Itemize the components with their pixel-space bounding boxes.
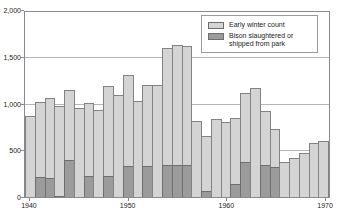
y-tick-mark <box>21 10 24 11</box>
y-tick-label-500: 500 <box>0 147 21 154</box>
y-tick-label-1,500: 1,500 <box>0 54 21 61</box>
legend: Early winter count Bison slaughtered or … <box>201 15 318 53</box>
y-tick-label-0: 0 <box>0 194 21 201</box>
y-tick-mark <box>21 150 24 151</box>
x-tick-mark-1960 <box>226 198 227 201</box>
bar-1970 <box>318 141 329 197</box>
y-tick-label-2,000: 2,000 <box>0 7 21 14</box>
legend-item-early-winter-count: Early winter count <box>208 21 313 29</box>
x-tick-label-1950: 1950 <box>113 202 143 209</box>
bison-slaughtered-swatch-icon <box>208 33 224 40</box>
x-tick-label-1940: 1940 <box>14 202 44 209</box>
legend-label: Bison slaughtered or shipped from park <box>229 32 313 48</box>
x-tick-mark-1970 <box>325 198 326 201</box>
y-tick-mark <box>21 197 24 198</box>
x-tick-label-1970: 1970 <box>310 202 338 209</box>
legend-label: Early winter count <box>229 21 285 29</box>
early-winter-count-swatch-icon <box>208 22 224 29</box>
y-tick-mark <box>21 104 24 105</box>
x-tick-label-1960: 1960 <box>211 202 241 209</box>
y-tick-mark <box>21 57 24 58</box>
y-tick-label-1,000: 1,000 <box>0 101 21 108</box>
x-tick-mark-1940 <box>29 198 30 201</box>
x-tick-mark-1950 <box>128 198 129 201</box>
legend-item-bison-slaughtered: Bison slaughtered or shipped from park <box>208 32 313 48</box>
